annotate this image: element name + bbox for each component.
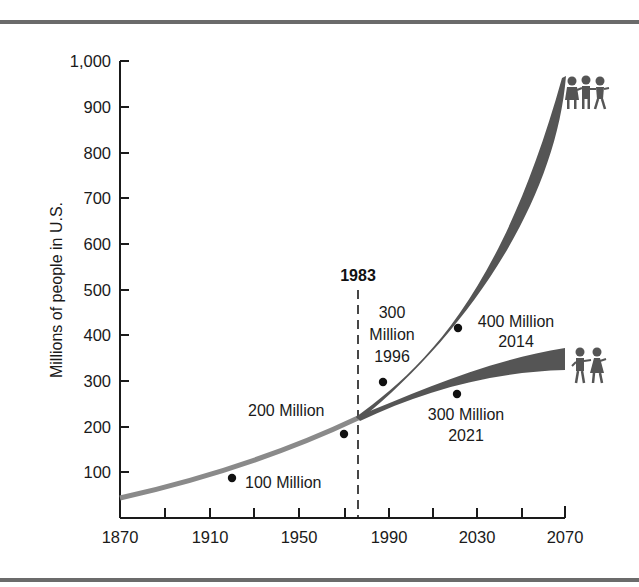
data-point-200-million bbox=[340, 430, 348, 438]
y-tick-label: 100 bbox=[83, 463, 111, 481]
x-tick-label: 1910 bbox=[192, 528, 229, 546]
year-1983-marker: 1983 bbox=[340, 267, 376, 518]
annotation-300-million-year: 1996 bbox=[374, 348, 410, 365]
y-tick-label: 600 bbox=[83, 235, 111, 253]
data-point-300-million-1996 bbox=[379, 378, 387, 386]
y-tick-label: 500 bbox=[83, 281, 111, 299]
annotation-400-million: 400 Million bbox=[478, 313, 554, 330]
y-tick-label: 800 bbox=[83, 144, 111, 162]
y-tick-label: 900 bbox=[83, 98, 111, 116]
y-tick-label: 400 bbox=[83, 326, 111, 344]
annotation-300-million-2021-year: 2021 bbox=[448, 427, 484, 444]
population-chart: 1,000 900 800 700 600 500 400 300 200 10… bbox=[0, 0, 639, 587]
three-children-icon bbox=[565, 76, 609, 110]
x-tick-label: 1990 bbox=[371, 528, 408, 546]
x-tick-label: 1950 bbox=[281, 528, 318, 546]
annotation-300-million-label: 300 bbox=[379, 304, 406, 321]
y-axis: 1,000 900 800 700 600 500 400 300 200 10… bbox=[48, 52, 129, 518]
two-children-icon bbox=[572, 348, 606, 384]
historical-curve bbox=[120, 418, 358, 498]
annotation-300-million-2021: 300 Million bbox=[428, 406, 504, 423]
x-tick-label: 1870 bbox=[102, 528, 139, 546]
annotation-200-million: 200 Million bbox=[248, 402, 324, 419]
y-tick-label: 1,000 bbox=[70, 52, 111, 70]
x-tick-label: 2070 bbox=[547, 528, 584, 546]
annotation-400-million-year: 2014 bbox=[498, 333, 534, 350]
data-point-400-million-2014 bbox=[454, 324, 462, 332]
annotation-100-million: 100 Million bbox=[245, 474, 321, 491]
y-tick-label: 200 bbox=[83, 418, 111, 436]
marker-label: 1983 bbox=[340, 267, 376, 284]
data-point-300-million-2021 bbox=[453, 390, 461, 398]
x-axis: 1870 1910 1950 1990 2030 2070 bbox=[102, 506, 584, 546]
data-point-100-million bbox=[228, 474, 236, 482]
y-tick-label: 300 bbox=[83, 372, 111, 390]
y-axis-label: Millions of people in U.S. bbox=[48, 202, 65, 378]
annotation-300-million-label: Million bbox=[369, 326, 414, 343]
y-tick-label: 700 bbox=[83, 189, 111, 207]
x-tick-label: 2030 bbox=[459, 528, 496, 546]
